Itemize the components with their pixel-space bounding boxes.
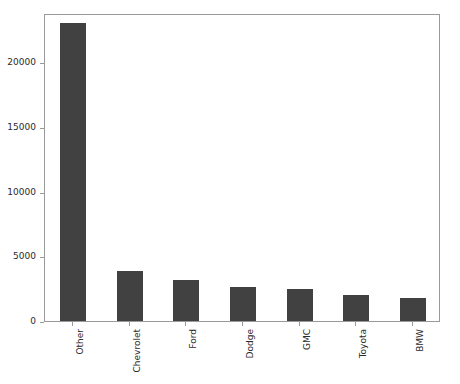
- y-tick-label-5000: 5000: [0, 252, 36, 261]
- x-tick-mark: [72, 322, 73, 326]
- plot-area: [45, 15, 439, 321]
- bar-chevrolet: [117, 271, 143, 321]
- x-tick-label-chevrolet: Chevrolet: [133, 329, 142, 372]
- x-tick-mark: [355, 322, 356, 326]
- x-tick-label-other: Other: [76, 329, 85, 355]
- bar-other: [60, 23, 86, 321]
- y-tick-mark: [40, 257, 44, 258]
- x-tick-label-toyota: Toyota: [359, 329, 368, 358]
- x-tick-mark: [185, 322, 186, 326]
- bar-bmw: [400, 298, 426, 321]
- bar-ford: [173, 280, 199, 321]
- x-tick-label-gmc: GMC: [303, 329, 312, 350]
- bar-toyota: [343, 295, 369, 321]
- x-tick-label-ford: Ford: [189, 329, 198, 349]
- x-tick-mark: [129, 322, 130, 326]
- x-tick-label-bmw: BMW: [416, 329, 425, 352]
- bar-gmc: [287, 289, 313, 321]
- y-tick-label-20000: 20000: [0, 58, 36, 67]
- y-tick-label-10000: 10000: [0, 188, 36, 197]
- y-tick-mark: [40, 193, 44, 194]
- x-tick-mark: [242, 322, 243, 326]
- figure-canvas: 05000100001500020000 OtherChevroletFordD…: [0, 0, 460, 384]
- chart-axes: [44, 14, 440, 322]
- y-tick-mark: [40, 128, 44, 129]
- y-tick-label-0: 0: [0, 317, 36, 326]
- x-tick-label-dodge: Dodge: [246, 329, 255, 358]
- x-tick-mark: [299, 322, 300, 326]
- y-tick-mark: [40, 322, 44, 323]
- bar-dodge: [230, 287, 256, 321]
- y-tick-label-15000: 15000: [0, 123, 36, 132]
- y-tick-mark: [40, 63, 44, 64]
- x-tick-mark: [412, 322, 413, 326]
